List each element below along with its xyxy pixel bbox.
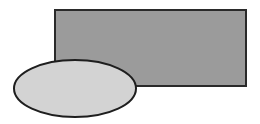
light-gray-ellipse bbox=[14, 60, 136, 117]
diagram-canvas bbox=[0, 0, 260, 124]
